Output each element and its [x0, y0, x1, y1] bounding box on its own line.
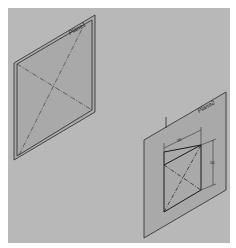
- plane1[interactable]: Plane1: [14, 15, 95, 160]
- cad-scene[interactable]: Plane1 Plane2 50 50: [0, 0, 236, 248]
- dimension-label-vertical: 50: [210, 160, 215, 165]
- plane2[interactable]: Plane2 50 50: [144, 92, 226, 238]
